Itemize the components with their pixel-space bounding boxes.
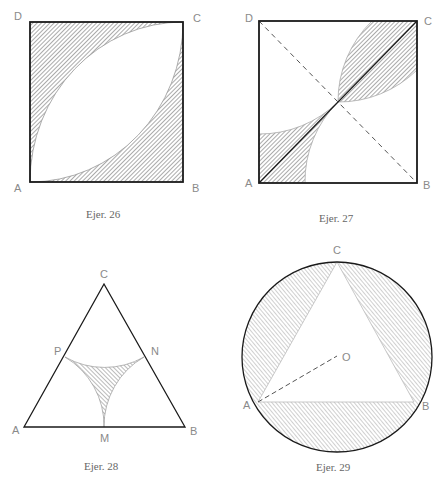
caption-fig29: Ejer. 29	[316, 461, 351, 473]
point-label-p: P	[54, 345, 61, 357]
vertex-label-d: D	[245, 12, 253, 24]
figure-29: C O A B Ejer. 29	[242, 244, 432, 473]
vertex-label-b: B	[192, 182, 199, 194]
vertex-label-c: C	[100, 268, 108, 280]
figures-page: D C A B Ejer. 26 D C A B Ejer. 27 C P N …	[0, 0, 442, 502]
figure-26: D C A B Ejer. 26	[14, 10, 201, 220]
caption-fig28: Ejer. 28	[84, 460, 119, 472]
vertex-label-d: D	[14, 10, 22, 22]
vertex-label-b: B	[190, 425, 197, 437]
point-label-n: N	[151, 345, 159, 357]
vertex-label-b: B	[422, 400, 429, 412]
figure-27: D C A B Ejer. 27	[245, 12, 432, 224]
center-label-o: O	[342, 351, 351, 363]
caption-fig26: Ejer. 26	[86, 208, 121, 220]
caption-fig27: Ejer. 27	[319, 212, 354, 224]
vertex-label-a: A	[245, 177, 253, 189]
vertex-label-a: A	[12, 424, 20, 436]
vertex-label-c: C	[193, 12, 201, 24]
vertex-label-c: C	[424, 15, 432, 27]
vertex-label-a: A	[14, 182, 22, 194]
vertex-label-c: C	[333, 244, 341, 256]
vertex-label-b: B	[423, 179, 430, 191]
figure-28: C P N A M B Ejer. 28	[12, 268, 197, 472]
shaded-curvilinear-triangle	[65, 357, 144, 427]
vertex-label-a: A	[243, 399, 251, 411]
point-label-m: M	[100, 432, 109, 444]
